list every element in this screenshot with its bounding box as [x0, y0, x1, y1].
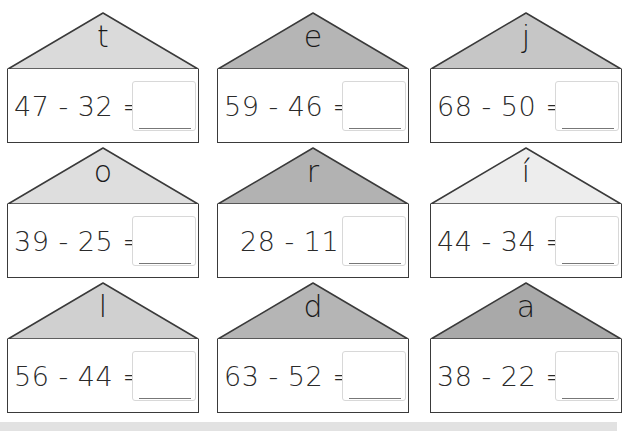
subtraction-expression: 59 - 46 =	[224, 87, 355, 127]
subtraction-expression: 38 - 22 =	[437, 357, 568, 397]
house-card: d 63 - 52 =	[217, 283, 409, 414]
house-body: 68 - 50 =	[430, 69, 622, 143]
house-card: e 59 - 46 =	[217, 13, 409, 144]
answer-underline	[349, 263, 401, 264]
answer-input[interactable]	[342, 351, 406, 401]
house-card: í 44 - 34 =	[430, 148, 622, 279]
answer-input[interactable]	[342, 216, 406, 266]
house-body: 39 - 25 =	[7, 204, 199, 278]
house-card: o 39 - 25 =	[7, 148, 199, 279]
house-body: 28 - 11 =	[217, 204, 409, 278]
roof-letter: í	[430, 152, 622, 192]
house-body: 47 - 32 =	[7, 69, 199, 143]
answer-underline	[139, 263, 191, 264]
subtraction-expression: 56 - 44 =	[14, 357, 145, 397]
roof-letter: d	[217, 287, 409, 327]
answer-underline	[349, 128, 401, 129]
answer-underline	[139, 398, 191, 399]
answer-input[interactable]	[132, 81, 196, 131]
answer-input[interactable]	[555, 216, 619, 266]
house-card: r 28 - 11 =	[217, 148, 409, 279]
house-body: 59 - 46 =	[217, 69, 409, 143]
roof-letter: r	[217, 152, 409, 192]
answer-underline	[562, 128, 614, 129]
subtraction-expression: 68 - 50 =	[437, 87, 568, 127]
house-card: j 68 - 50 =	[430, 13, 622, 144]
house-card: l 56 - 44 =	[7, 283, 199, 414]
subtraction-expression: 39 - 25 =	[14, 222, 145, 262]
roof-letter: j	[430, 17, 622, 57]
answer-input[interactable]	[342, 81, 406, 131]
answer-underline	[349, 398, 401, 399]
answer-input[interactable]	[555, 81, 619, 131]
answer-input[interactable]	[555, 351, 619, 401]
roof-letter: e	[217, 17, 409, 57]
roof-letter: o	[7, 152, 199, 192]
bottom-strip	[0, 422, 617, 431]
answer-input[interactable]	[132, 351, 196, 401]
house-card: t 47 - 32 =	[7, 13, 199, 144]
answer-input[interactable]	[132, 216, 196, 266]
subtraction-expression: 47 - 32 =	[14, 87, 145, 127]
roof-letter: a	[430, 287, 622, 327]
house-body: 63 - 52 =	[217, 339, 409, 413]
house-body: 44 - 34 =	[430, 204, 622, 278]
subtraction-expression: 44 - 34 =	[437, 222, 568, 262]
answer-underline	[562, 398, 614, 399]
answer-underline	[562, 263, 614, 264]
house-body: 56 - 44 =	[7, 339, 199, 413]
house-body: 38 - 22 =	[430, 339, 622, 413]
roof-letter: l	[7, 287, 199, 327]
subtraction-expression: 63 - 52 =	[224, 357, 355, 397]
roof-letter: t	[7, 17, 199, 57]
house-card: a 38 - 22 =	[430, 283, 622, 414]
answer-underline	[139, 128, 191, 129]
